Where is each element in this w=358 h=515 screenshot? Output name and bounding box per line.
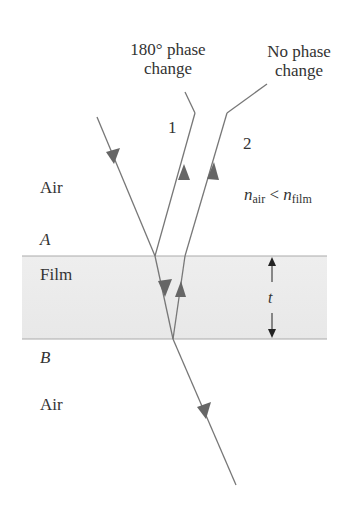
- ray2-leader-line: [227, 84, 267, 113]
- ray1-phase-line1: 180° phase: [115, 40, 221, 59]
- arrow-incident-icon: [106, 148, 120, 164]
- ray1-number: 1: [168, 118, 177, 137]
- sub-film: film: [292, 192, 312, 206]
- arrow-transmitted-icon: [197, 402, 211, 419]
- ray2-phase-line1: No phase: [252, 42, 346, 61]
- sub-air: air: [253, 192, 266, 206]
- film-label: Film: [40, 265, 72, 284]
- reflected-ray-2: [185, 113, 227, 256]
- ray1-phase-label: 180° phase change: [115, 40, 221, 78]
- bottom-medium-label: Air: [40, 395, 63, 414]
- less-than-sign: <: [269, 185, 279, 204]
- ray1-phase-line2: change: [115, 59, 221, 78]
- ray2-phase-line2: change: [252, 61, 346, 80]
- interface-b-label: B: [40, 348, 50, 367]
- arrow-ray2-icon: [207, 162, 219, 180]
- ray2-number: 2: [243, 134, 252, 153]
- incident-ray: [97, 117, 155, 256]
- ray1-leader-line: [185, 92, 195, 113]
- n-symbol-2: n: [283, 185, 292, 204]
- thickness-label: t: [268, 288, 272, 307]
- top-medium-label: Air: [40, 178, 63, 197]
- ray2-phase-label: No phase change: [252, 42, 346, 80]
- interface-a-label: A: [40, 230, 50, 249]
- refractive-index-relation: nair < nfilm: [244, 185, 312, 209]
- n-symbol: n: [244, 185, 253, 204]
